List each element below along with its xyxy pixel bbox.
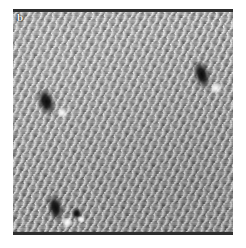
micrograph-image: b	[13, 9, 233, 235]
panel-label: b	[17, 11, 23, 23]
figure-panel: b	[0, 0, 246, 248]
atomic-lattice-texture	[13, 9, 233, 235]
